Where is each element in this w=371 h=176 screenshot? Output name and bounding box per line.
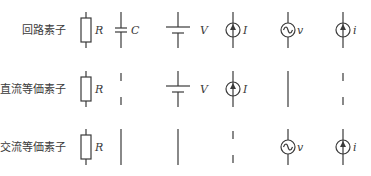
element-symbol-label: i xyxy=(353,24,357,37)
resistor-icon: R xyxy=(81,12,103,48)
row-label: 交流等価素子 xyxy=(0,140,66,154)
element-symbol-label: R xyxy=(94,141,103,154)
dc-current-source-icon: I xyxy=(226,71,248,107)
arrow-icon xyxy=(340,24,346,30)
element-row: 直流等価素子RVI xyxy=(0,71,343,107)
element-symbol-label: C xyxy=(131,24,140,37)
sine-wave-icon xyxy=(284,144,293,150)
element-symbol-label: v xyxy=(297,141,304,154)
arrow-icon xyxy=(230,24,236,30)
element-symbol-label: v xyxy=(297,24,304,37)
ac-voltage-source-icon: v xyxy=(281,129,304,165)
element-symbol-label: i xyxy=(353,141,357,154)
resistor-body xyxy=(81,77,91,101)
element-row: 交流等価素子Rvi xyxy=(0,129,357,165)
arrow-icon xyxy=(230,83,236,89)
element-symbol-label: V xyxy=(200,83,209,96)
row-label: 直流等価素子 xyxy=(0,82,66,96)
row-label: 回路素子 xyxy=(22,24,66,37)
dc-voltage-source-icon: V xyxy=(166,71,209,107)
resistor-body xyxy=(81,18,91,42)
element-symbol-label: I xyxy=(242,24,248,37)
sine-wave-icon xyxy=(284,27,293,33)
resistor-body xyxy=(81,135,91,159)
ac-current-source-icon: i xyxy=(336,129,357,165)
resistor-icon: R xyxy=(81,71,103,107)
element-symbol-label: I xyxy=(242,83,248,96)
element-symbol-label: V xyxy=(200,24,209,37)
resistor-icon: R xyxy=(81,129,103,165)
element-symbol-label: R xyxy=(94,24,103,37)
circuit-element-equivalence-diagram: 回路素子RCVIvi直流等価素子RVI交流等価素子Rvi xyxy=(0,0,371,176)
arrow-icon xyxy=(340,141,346,147)
element-row: 回路素子RCVIvi xyxy=(22,12,357,48)
ac-voltage-source-icon: v xyxy=(281,12,304,48)
dc-voltage-source-icon: V xyxy=(166,12,209,48)
element-symbol-label: R xyxy=(94,83,103,96)
capacitor-icon: C xyxy=(115,12,140,48)
dc-current-source-icon: I xyxy=(226,12,248,48)
ac-current-source-icon: i xyxy=(336,12,357,48)
